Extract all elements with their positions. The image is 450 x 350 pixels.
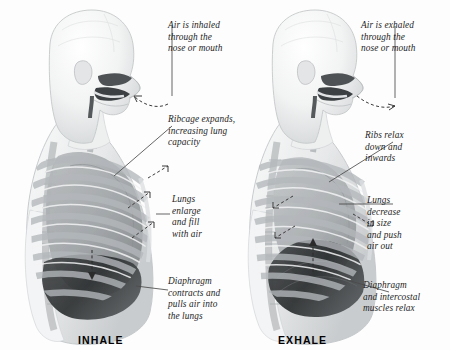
pharynx [313,96,315,118]
callout-lungs-decrease: Lungs decrease in size and push air out [367,195,425,253]
panel-inhale: Air is inhaled through the nose or mouth… [0,0,225,350]
panel-exhale: Air is exhaled through the nose or mouth… [225,0,450,350]
pharynx [90,96,92,118]
ear [297,61,315,85]
callout-ribs-relax: Ribs relax down and inwards [365,130,427,165]
airflow-arrow-in [134,96,168,106]
callout-lungs-enlarge: Lungs enlarge and fill with air [172,194,230,240]
caption-exhale: EXHALE [278,334,327,346]
callout-air-inhaled: Air is inhaled through the nose or mouth [168,20,232,55]
breathing-diagram: Air is inhaled through the nose or mouth… [0,0,450,350]
airflow-arrow-out [357,96,395,107]
ear [74,61,92,85]
caption-inhale: INHALE [78,334,124,346]
callout-air-exhaled: Air is exhaled through the nose or mouth [361,20,427,55]
callout-diaphragm-relax: Diaphragm and intercostal muscles relax [363,280,435,315]
